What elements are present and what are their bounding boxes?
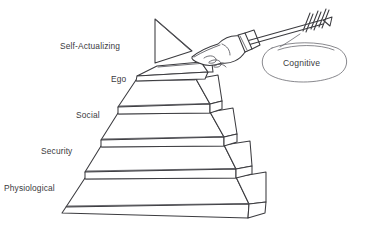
diagram-canvas — [0, 0, 365, 230]
maslow-pyramid-diagram: Self-Actualizing Ego Social Security Phy… — [0, 0, 365, 230]
fletched-arrow-icon — [236, 9, 332, 48]
triangle-pennant-icon — [155, 19, 192, 63]
tier-ego-top-face — [118, 79, 210, 107]
tier-physiological-top-face — [66, 177, 249, 207]
cognitive-callout-label: Cognitive — [283, 58, 320, 68]
tier-label-self-actualizing: Self-Actualizing — [60, 41, 120, 51]
tier-label-ego: Ego — [111, 74, 126, 84]
arrow-nock — [323, 17, 332, 26]
tier-social-top-face — [101, 112, 224, 140]
tier-label-security: Security — [41, 146, 72, 156]
tier-physiological-right-front-face — [248, 202, 266, 218]
pyramid-tier-ego — [118, 75, 222, 114]
tier-label-physiological: Physiological — [4, 183, 55, 193]
pennant-triangle — [155, 19, 192, 63]
pointing-hand-icon — [192, 30, 260, 67]
tier-label-social: Social — [76, 110, 100, 120]
tier-security-top-face — [85, 145, 236, 172]
cognitive-ellipse-inner-top — [278, 46, 334, 51]
pyramid-tier-self-actualizing — [136, 62, 213, 81]
